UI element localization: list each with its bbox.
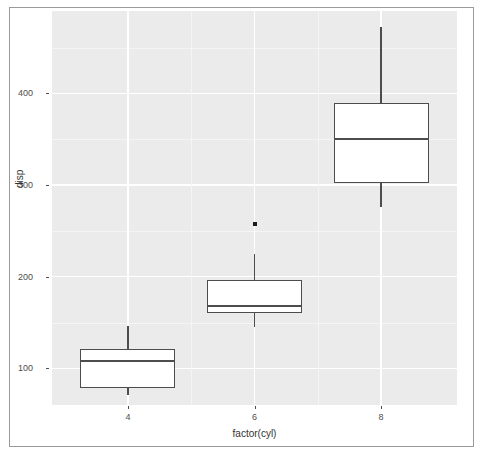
x-tick-mark (128, 406, 129, 409)
plot-panel (52, 11, 457, 405)
median-line (334, 138, 429, 140)
y-tick-mark (46, 93, 49, 94)
y-tick-label: 400 (18, 88, 33, 98)
x-tick-mark (255, 406, 256, 409)
y-axis-title: disp (14, 170, 25, 188)
gridline-x-minor (318, 11, 319, 405)
y-tick-mark (46, 368, 49, 369)
y-tick-label: 100 (18, 363, 33, 373)
y-axis: 100200300400 (0, 0, 47, 455)
box-iqr (334, 103, 429, 184)
whisker-upper (380, 27, 382, 102)
boxplot-screenshot: 100200300400 468 disp factor(cyl) (0, 0, 483, 455)
x-tick-label: 6 (252, 412, 257, 422)
gridline-x-major (254, 11, 255, 405)
box-iqr (80, 349, 175, 387)
gridline-x-minor (191, 11, 192, 405)
median-line (207, 305, 302, 307)
x-tick-mark (381, 406, 382, 409)
median-line (80, 360, 175, 362)
whisker-lower (254, 313, 256, 327)
outlier-point (253, 222, 257, 226)
y-tick-mark (46, 277, 49, 278)
x-tick-label: 4 (125, 412, 130, 422)
y-tick-label: 200 (18, 272, 33, 282)
whisker-upper (254, 254, 256, 280)
whisker-upper (127, 326, 129, 350)
box-iqr (207, 280, 302, 313)
whisker-lower (380, 183, 382, 207)
whisker-lower (127, 388, 129, 395)
x-tick-label: 8 (379, 412, 384, 422)
x-axis-title: factor(cyl) (52, 428, 457, 439)
y-tick-mark (46, 185, 49, 186)
